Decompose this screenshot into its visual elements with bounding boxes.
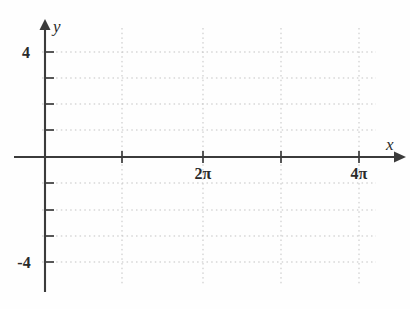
y-tick-label-neg4: -4 [17,254,30,271]
x-axis [14,152,406,163]
x-tick-label-4pi: 4π [351,165,368,182]
coordinate-plane-figure: y x 4 -4 2π 4π [0,0,410,309]
x-axis-arrow-icon [394,152,406,163]
x-tick-label-2pi: 2π [195,165,212,182]
y-axis [40,19,51,292]
x-axis-label: x [385,135,394,154]
y-axis-label: y [51,17,61,36]
y-tick-label-4: 4 [22,44,30,61]
graph-canvas: y x 4 -4 2π 4π [0,0,410,309]
y-axis-arrow-icon [40,19,51,30]
